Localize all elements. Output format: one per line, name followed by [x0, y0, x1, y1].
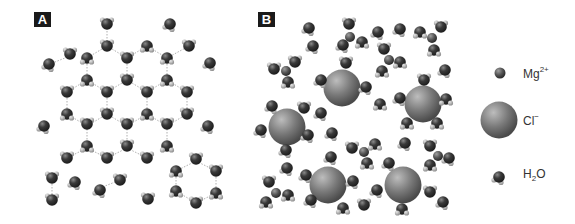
legend-mg-symbol	[495, 68, 506, 79]
figure: A B Mg2+ Cl− H2O	[0, 0, 575, 224]
legend-cl-symbol	[481, 102, 518, 139]
panel-label-a: A	[34, 12, 51, 27]
legend-mg-label: Mg2+	[523, 65, 549, 81]
legend-water-label: H2O	[523, 167, 545, 183]
legend-symbols	[481, 68, 518, 186]
panel-label-b: B	[258, 12, 275, 27]
molecular-diagram	[0, 0, 575, 224]
legend-cl-label: Cl−	[523, 112, 539, 128]
legend-water-symbol	[491, 171, 504, 185]
panel-a-water-network	[36, 17, 223, 208]
